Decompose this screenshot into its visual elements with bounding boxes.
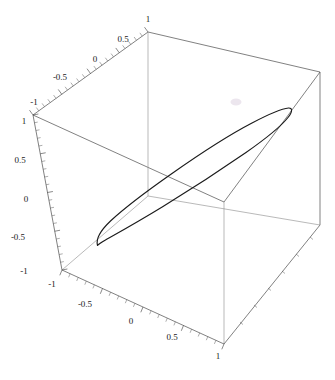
- x-tick-label-0p5: 0.5: [166, 332, 178, 342]
- box-edge-top-back-right: [148, 32, 320, 72]
- y-axis-ticks: [30, 27, 149, 115]
- box-edge-top-right-front: [224, 72, 320, 202]
- x-axis-labels: -1 -0.5 0 0.5 1: [48, 279, 220, 361]
- x-tick-label-0: 0: [129, 316, 134, 326]
- y-tick-label-neg0p5: -0.5: [53, 72, 68, 82]
- parametric-curve-group: [97, 108, 291, 246]
- box-edge-bottom-front-right: [224, 225, 320, 344]
- z-axis-labels: 1 0.5 0 -0.5 -1: [11, 116, 29, 276]
- bounding-box: [33, 32, 320, 344]
- z-tick-label-neg1: -1: [20, 266, 28, 276]
- z-tick-label-1: 1: [22, 116, 27, 126]
- y-tick-label-1: 1: [146, 14, 151, 24]
- plot-canvas: 1 0.5 0 -0.5 -1 -1 -0.5 0 0.5 1 -1 -0.5 …: [0, 0, 335, 380]
- y-tick-label-0p5: 0.5: [117, 34, 129, 44]
- box-edge-top-front-left: [33, 115, 224, 202]
- background-smudge-artifact: [231, 99, 242, 106]
- box-edge-bottom-back-left: [62, 196, 148, 270]
- plot-container: 1 0.5 0 -0.5 -1 -1 -0.5 0 0.5 1 -1 -0.5 …: [0, 0, 335, 380]
- x-axis-ticks: [60, 270, 224, 349]
- y-tick-label-0: 0: [93, 54, 98, 64]
- z-tick-label-0: 0: [24, 194, 29, 204]
- x-tick-label-1: 1: [216, 351, 221, 361]
- y-tick-label-neg1: -1: [30, 97, 38, 107]
- z-tick-label-0p5: 0.5: [14, 155, 26, 165]
- z-tick-label-neg0p5: -0.5: [11, 232, 26, 242]
- y-axis-labels: -1 -0.5 0 0.5 1: [30, 14, 150, 107]
- right-bottom-axis-ticks: [240, 237, 313, 325]
- great-circle-curve: [97, 108, 291, 246]
- x-tick-label-neg0p5: -0.5: [78, 299, 93, 309]
- z-axis-ticks: [33, 114, 67, 270]
- x-tick-label-neg1: -1: [48, 279, 56, 289]
